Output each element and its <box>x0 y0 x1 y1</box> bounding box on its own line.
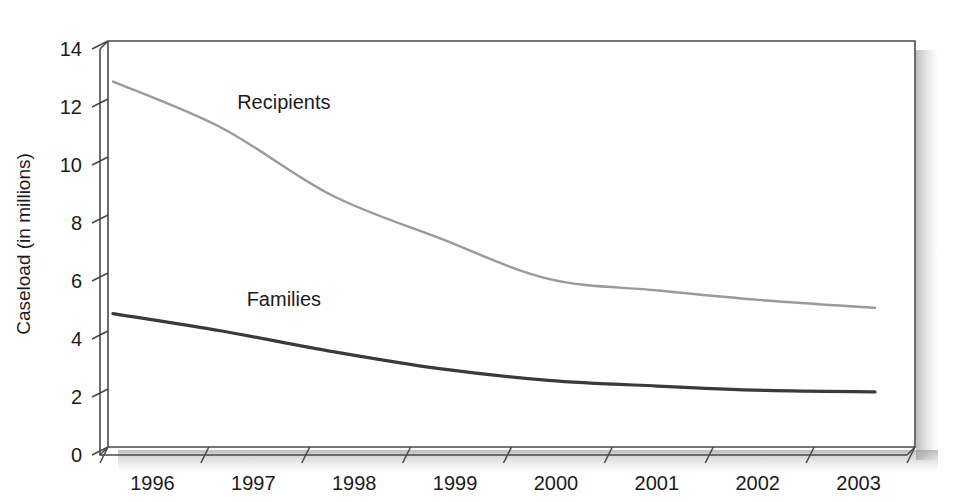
series-line-families <box>113 314 875 392</box>
x-tick-label: 1999 <box>433 472 478 494</box>
series-annotation-recipients: Recipients <box>237 91 330 113</box>
series-annotation-families: Families <box>247 288 321 310</box>
x-tick-label: 1996 <box>130 472 175 494</box>
plot-box-shadow <box>118 50 938 472</box>
x-tick-label: 2001 <box>635 472 680 494</box>
x-tick-label: 1998 <box>332 472 377 494</box>
y-tick-label: 2 <box>71 386 82 408</box>
y-tick-mark <box>92 41 108 49</box>
x-tick-label: 2003 <box>836 472 881 494</box>
y-tick-label: 4 <box>71 328 82 350</box>
y-axis-title: Caseload (in millions) <box>13 153 34 335</box>
chart-container: 02468101214 Caseload (in millions) 19961… <box>0 0 955 502</box>
x-axis-tick-labels: 19961997199819992000200120022003 <box>130 472 881 494</box>
y-axis-tick-labels: 02468101214 <box>60 38 82 466</box>
y-tick-label: 8 <box>71 212 82 234</box>
series-lines <box>113 82 875 392</box>
x-tick-label: 2000 <box>534 472 579 494</box>
y-tick-label: 6 <box>71 270 82 292</box>
plot-frame <box>100 41 915 455</box>
x-tick-label: 2002 <box>735 472 780 494</box>
y-tick-label: 12 <box>60 96 82 118</box>
y-tick-label: 10 <box>60 154 82 176</box>
line-chart: 02468101214 Caseload (in millions) 19961… <box>0 0 955 502</box>
x-tick-label: 1997 <box>231 472 276 494</box>
y-tick-label: 0 <box>71 444 82 466</box>
y-tick-label: 14 <box>60 38 82 60</box>
series-annotations: RecipientsFamilies <box>237 91 330 310</box>
series-line-recipients <box>113 82 875 308</box>
